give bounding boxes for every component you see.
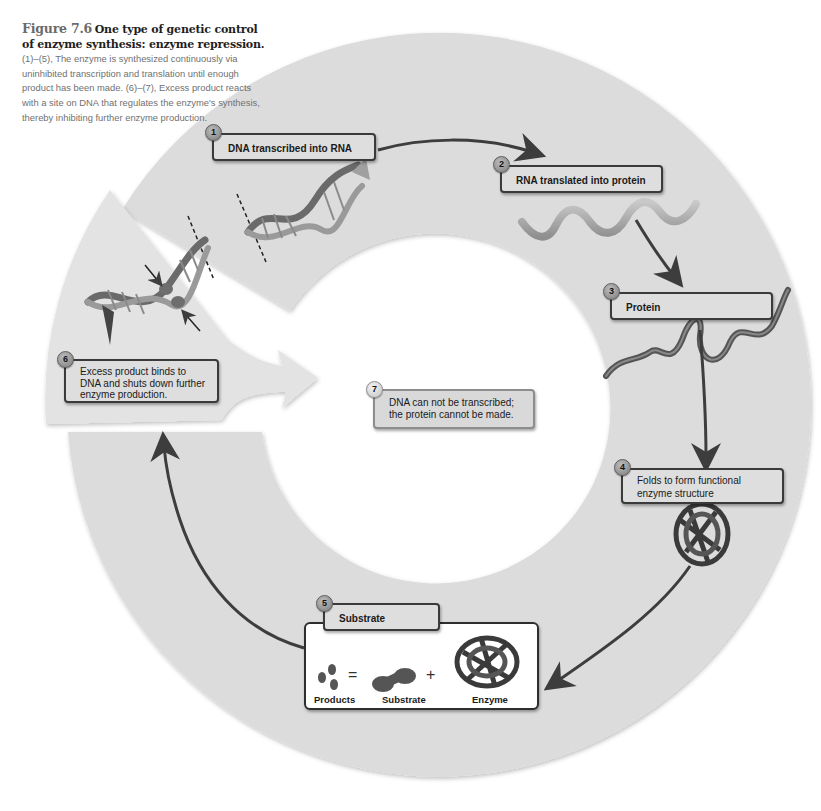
step-2-box: RNA translated into protein — [500, 165, 663, 193]
equals-sign: = — [348, 666, 357, 684]
enzyme-label: Enzyme — [472, 694, 508, 705]
step-3-badge: 3 — [603, 283, 620, 300]
reaction-panel: = + Products Substrate Enzyme — [304, 622, 539, 710]
step-2-badge: 2 — [493, 156, 510, 173]
step-2-label: RNA translated into protein — [516, 174, 655, 187]
substrate-icon — [372, 668, 418, 690]
folded-enzyme-icon — [676, 504, 728, 564]
step-6-box: Excess product binds to DNA and shuts do… — [64, 359, 219, 403]
step-5-badge: 5 — [316, 595, 333, 612]
figure-body: (1)–(5), The enzyme is synthesized conti… — [22, 53, 260, 122]
plus-sign: + — [426, 666, 435, 684]
step-5-box: Substrate — [323, 603, 440, 631]
products-label: Products — [314, 694, 355, 705]
step-4-label: Folds to form functional enzyme structur… — [637, 474, 752, 500]
step-7-box: DNA can not be transcribed; the protein … — [373, 389, 535, 429]
step-6-badge: 6 — [57, 351, 74, 368]
products-icon — [318, 664, 348, 694]
step-4-badge: 4 — [614, 459, 631, 476]
step-3-label: Protein — [626, 301, 765, 314]
substrate-label: Substrate — [382, 694, 426, 705]
step-3-box: Protein — [610, 292, 773, 320]
enzyme-icon — [451, 632, 523, 690]
step-1-label: DNA transcribed into RNA — [228, 142, 368, 155]
step-7-label: DNA can not be transcribed; the protein … — [389, 397, 527, 421]
figure-number: Figure 7.6 — [22, 21, 92, 36]
step-4-box: Folds to form functional enzyme structur… — [621, 468, 784, 504]
enzyme-repression-figure: Figure 7.6 One type of genetic control o… — [0, 0, 821, 811]
step-7-badge: 7 — [366, 381, 383, 398]
step-6-label: Excess product binds to DNA and shuts do… — [80, 366, 209, 401]
figure-caption: Figure 7.6 One type of genetic control o… — [22, 22, 267, 125]
step-5-label: Substrate — [339, 612, 432, 625]
step-1-badge: 1 — [205, 124, 222, 141]
step-1-box: DNA transcribed into RNA — [212, 133, 376, 161]
